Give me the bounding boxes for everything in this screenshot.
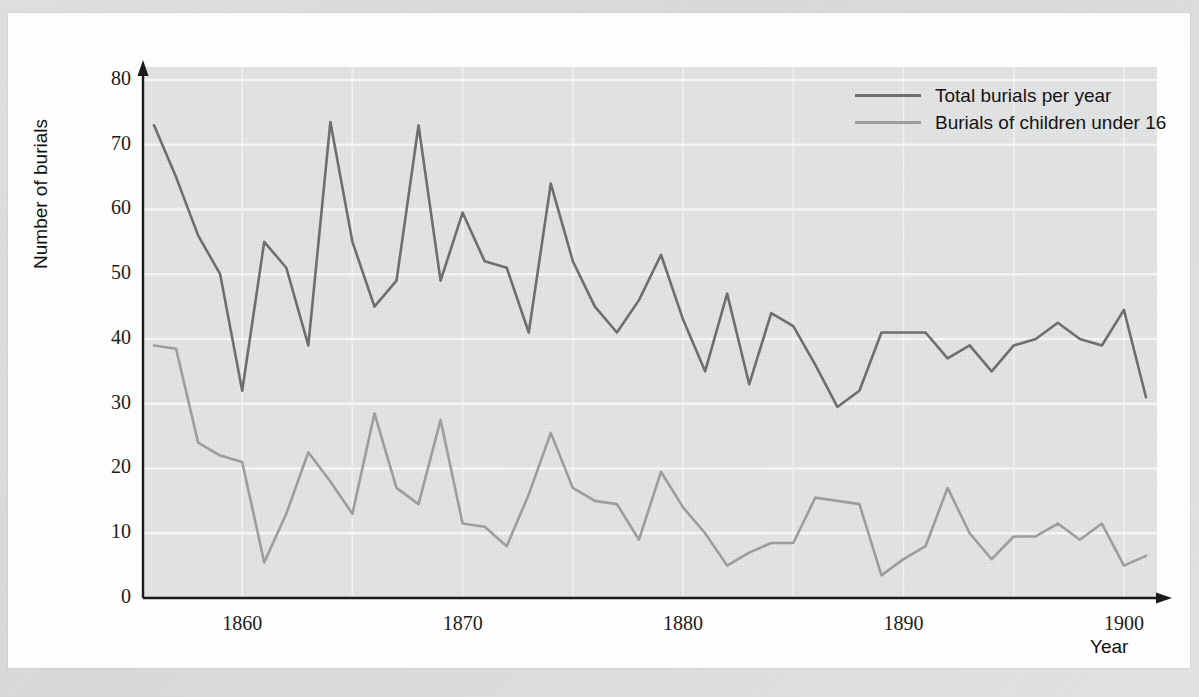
x-tick-label: 1890: [859, 612, 949, 635]
legend-line-swatch-icon: [855, 121, 921, 124]
y-tick-label: 10: [85, 520, 131, 543]
y-tick-label: 60: [85, 196, 131, 219]
y-tick-label: 30: [85, 391, 131, 414]
series-line: [154, 122, 1146, 407]
y-tick-label: 20: [85, 455, 131, 478]
x-tick-label: 1860: [197, 612, 287, 635]
x-tick-label: 1880: [638, 612, 728, 635]
y-axis-arrowhead: [138, 60, 149, 76]
y-tick-label: 70: [85, 132, 131, 155]
burials-line-chart: 01020304050607080 18601870188018901900 N…: [0, 0, 1199, 697]
legend-line-swatch-icon: [855, 94, 921, 97]
x-axis-title: Year: [1090, 636, 1128, 658]
y-axis-title: Number of burials: [30, 99, 52, 289]
x-axis-arrowhead: [1156, 593, 1172, 604]
y-tick-label: 40: [85, 326, 131, 349]
axes: [138, 60, 1173, 604]
x-tick-label: 1870: [418, 612, 508, 635]
y-tick-label: 0: [85, 585, 131, 608]
legend-item: Burials of children under 16: [855, 109, 1155, 136]
y-tick-label: 80: [85, 67, 131, 90]
x-tick-label: 1900: [1079, 612, 1169, 635]
legend-item: Total burials per year: [855, 82, 1155, 109]
gridlines: [143, 67, 1157, 598]
series-line: [154, 345, 1146, 575]
series-lines: [154, 122, 1146, 575]
legend-label: Burials of children under 16: [935, 112, 1166, 134]
y-tick-label: 50: [85, 261, 131, 284]
legend-label: Total burials per year: [935, 85, 1111, 107]
chart-legend: Total burials per yearBurials of childre…: [855, 82, 1155, 136]
